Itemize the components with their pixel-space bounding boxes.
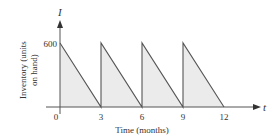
x-axis-arrow-icon	[253, 104, 261, 110]
y-axis-label-line2: on hand)	[29, 54, 39, 86]
x-tick-6: 6	[140, 112, 145, 122]
x-tick-3: 3	[99, 112, 104, 122]
x-tick-0: 0	[54, 112, 59, 122]
x-tick-9: 9	[181, 112, 186, 122]
y-tick-600: 600	[44, 39, 58, 49]
x-tick-12: 12	[220, 112, 229, 122]
inventory-chart: I t 600 0 3 6 9 12 Inventory (units on h…	[0, 0, 277, 139]
inventory-sawtooth	[60, 43, 224, 107]
y-axis-symbol: I	[57, 6, 63, 18]
x-axis-symbol: t	[263, 101, 267, 113]
y-axis-arrow-icon	[57, 20, 63, 28]
y-axis-label-line1: Inventory (units	[18, 41, 28, 99]
x-axis-label: Time (months)	[115, 125, 168, 135]
